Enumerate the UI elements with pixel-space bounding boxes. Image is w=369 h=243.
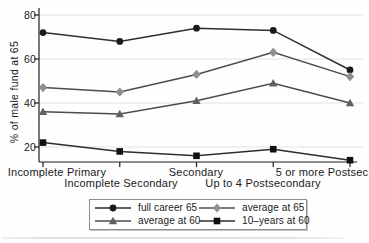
legend-label-average-at-60: average at 60 <box>138 216 200 226</box>
legend: full career 65 average at 65 average at … <box>89 199 307 230</box>
legend-item-average-at-65: average at 65 <box>198 202 310 214</box>
x-label-5-or-more-postsec: 5 or more Postsec <box>276 167 369 178</box>
pension-fund-line-chart: % of male fund at 65 80 60 40 20 Incompl… <box>0 0 369 243</box>
y-tick-label-40: 40 <box>10 98 36 108</box>
scan-artifact-line <box>2 237 344 239</box>
x-label-up-to-4-postsecondary: Up to 4 Postsecondary <box>205 178 320 189</box>
triangle-marker-icon <box>94 215 132 227</box>
legend-label-full-career-65: full career 65 <box>138 203 197 213</box>
legend-item-full-career-65: full career 65 <box>94 202 198 214</box>
square-marker-icon <box>198 215 236 227</box>
y-tick-label-20: 20 <box>10 142 36 152</box>
circle-marker-icon <box>94 202 132 214</box>
y-tick-label-60: 60 <box>10 54 36 64</box>
legend-label-average-at-65: average at 65 <box>242 203 304 213</box>
diamond-marker-icon <box>198 202 236 214</box>
legend-item-10-years-at-60: 10–years at 60 <box>198 215 310 227</box>
y-tick-label-80: 80 <box>10 10 36 20</box>
legend-item-average-at-60: average at 60 <box>94 215 198 227</box>
x-label-incomplete-secondary: Incomplete Secondary <box>64 178 177 189</box>
legend-label-10-years-at-60: 10–years at 60 <box>242 216 310 226</box>
